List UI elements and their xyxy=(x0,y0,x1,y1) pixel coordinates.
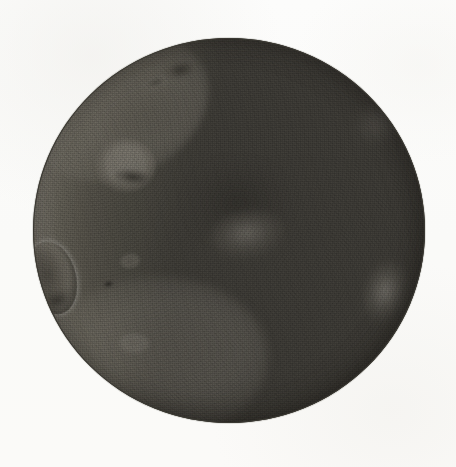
moon-disk xyxy=(33,38,425,423)
moon-disk-surface xyxy=(33,38,425,423)
stipple-texture xyxy=(33,38,425,423)
moon-drawing-canvas xyxy=(0,0,456,467)
